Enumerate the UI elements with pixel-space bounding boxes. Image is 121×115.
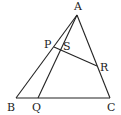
label-b: B — [7, 101, 15, 114]
segment-ac — [77, 15, 110, 98]
label-p: P — [44, 38, 52, 51]
geometry-diagram: A B Q C P S R — [0, 0, 121, 115]
label-q: Q — [32, 101, 41, 114]
label-r: R — [100, 61, 109, 74]
label-a: A — [73, 0, 83, 13]
label-s: S — [63, 40, 71, 53]
segment-ab — [16, 15, 77, 98]
label-c: C — [107, 101, 115, 114]
segment-aq — [38, 15, 77, 98]
